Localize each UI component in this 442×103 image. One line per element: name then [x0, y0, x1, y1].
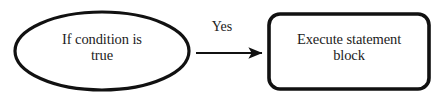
execute-node-label: Execute statement block — [272, 31, 426, 63]
flowchart-diagram: If condition is true Yes Execute stateme… — [0, 0, 442, 103]
yes-edge-label: Yes — [192, 19, 252, 35]
condition-node-label: If condition is true — [22, 31, 182, 63]
